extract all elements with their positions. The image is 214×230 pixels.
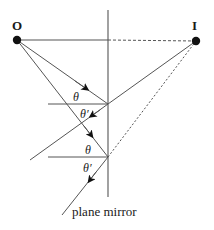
mirror-label: plane mirror: [72, 204, 137, 219]
plane-mirror-diagram: O I θ θ′ θ θ′ plane mirror: [0, 0, 214, 230]
image-point-icon: [192, 37, 200, 45]
reflected-ray-1-virtual: [108, 41, 196, 104]
object-point-icon: [13, 36, 21, 44]
theta-label-1: θ: [73, 90, 79, 104]
theta-prime-label-1: θ′: [80, 107, 89, 121]
incident-ray-1: [17, 40, 108, 104]
reflected-ray-1-arrow-icon: [92, 110, 100, 116]
incident-ray-2-arrow-icon: [84, 126, 91, 135]
incident-ray-2: [17, 40, 108, 157]
theta-prime-label-2: θ′: [83, 161, 92, 175]
image-label: I: [192, 18, 197, 33]
theta-label-2: θ: [85, 143, 91, 157]
incident-ray-1-arrow-icon: [75, 81, 86, 89]
object-label: O: [12, 18, 22, 33]
reflected-ray-2-virtual: [108, 41, 196, 157]
image-axis-dashed-line: [108, 40, 196, 41]
